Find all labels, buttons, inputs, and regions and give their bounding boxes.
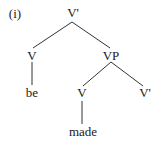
node-left-v: V xyxy=(27,49,36,62)
branch-vp-to-vbar xyxy=(111,62,143,86)
node-root-vbar: V' xyxy=(67,6,79,19)
branch-vp-to-v xyxy=(83,62,111,86)
node-inner-v: V xyxy=(77,86,86,99)
node-vp: VP xyxy=(103,49,120,62)
syntax-tree-diagram: (i) V' V VP be V V' made xyxy=(0,0,159,142)
example-label: (i) xyxy=(9,7,21,20)
leaf-be: be xyxy=(26,86,38,99)
leaf-made: made xyxy=(69,125,97,138)
tree-branches xyxy=(0,0,159,142)
branch-root-to-v xyxy=(33,22,72,48)
branch-root-to-vp xyxy=(72,22,110,48)
node-inner-vbar: V' xyxy=(139,86,151,99)
